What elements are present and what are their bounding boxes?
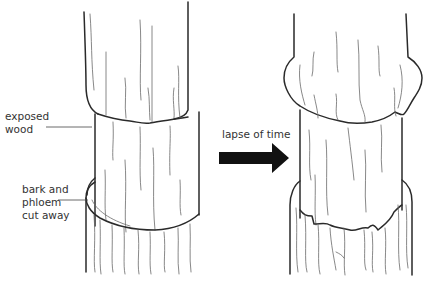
- bark-cut-line3: cut away: [22, 209, 70, 222]
- bark-cut-line2: phloem: [22, 196, 70, 209]
- exposed-wood-line1: exposed: [5, 110, 49, 123]
- bark-cut-label: bark and phloem cut away: [22, 183, 70, 222]
- right-stem: [284, 14, 422, 275]
- arrow-icon: [219, 143, 289, 173]
- exposed-wood-line2: wood: [5, 123, 49, 136]
- left-stem: [84, 2, 199, 274]
- exposed-wood-label: exposed wood: [5, 110, 49, 136]
- bark-cut-line1: bark and: [22, 183, 70, 196]
- girdling-diagram: [0, 0, 442, 291]
- arrow-caption: lapse of time: [222, 128, 290, 141]
